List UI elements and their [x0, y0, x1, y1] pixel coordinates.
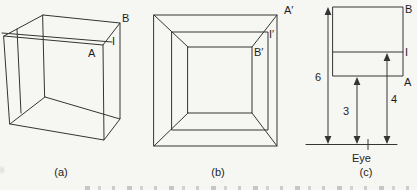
- eye-label: Eye: [352, 152, 371, 164]
- dimension-label-4: 4: [391, 93, 397, 105]
- dimension-label-6: 6: [315, 71, 321, 83]
- caption-a: (a): [54, 166, 67, 178]
- i-slice-vertical-line: [17, 29, 21, 113]
- arrow-down-icon: [354, 136, 361, 144]
- inner-square-back-face: [188, 47, 252, 113]
- cube-side-square: [333, 7, 403, 76]
- point-label-b: B: [405, 3, 412, 15]
- point-label-i: I: [112, 35, 115, 47]
- dimension-label-3: 3: [343, 105, 349, 117]
- point-label-i-prime: I′: [269, 28, 274, 40]
- panel-a-cube-perspective: A I B (a): [2, 12, 129, 178]
- arrow-up-icon: [384, 53, 391, 61]
- point-label-i: I: [405, 46, 408, 58]
- scan-edge-smudge: [0, 167, 4, 173]
- caption-c: (c): [360, 166, 373, 178]
- panel-b-projected-view: A′ I′ B′ (b): [154, 4, 293, 178]
- perspective-projection-diagram: A I B (a) A′ I′ B′ (b): [0, 0, 417, 190]
- caption-b: (b): [211, 166, 224, 178]
- arrow-down-icon: [325, 136, 332, 144]
- cropped-caption-remnant: [85, 186, 415, 190]
- point-label-a: A: [404, 76, 412, 88]
- point-label-b-prime: B′: [254, 46, 263, 58]
- arrow-down-icon: [384, 136, 391, 144]
- arrow-up-icon: [325, 7, 332, 15]
- point-label-a: A: [88, 47, 96, 59]
- cube-back-face: [43, 15, 120, 119]
- cube-connecting-edges: [4, 15, 120, 140]
- arrow-up-icon: [354, 77, 361, 85]
- point-label-b: B: [122, 12, 129, 24]
- textbook-figure: A I B (a) A′ I′ B′ (b): [0, 0, 417, 190]
- panel-c-side-view: B I A 6 3 4 Eye (c): [306, 3, 412, 178]
- point-label-a-prime: A′: [284, 4, 293, 16]
